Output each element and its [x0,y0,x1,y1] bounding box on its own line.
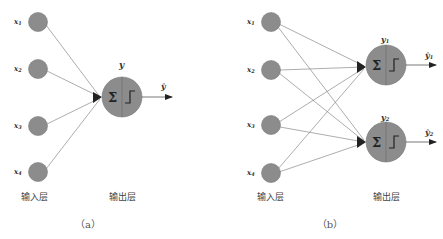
perceptron-diagram: x1 x2 x3 x4 Σ y ŷ 输入层 输出层 （a） [0,0,443,239]
input-nodes-a [29,13,48,182]
caption-b: （b） [317,219,343,230]
sigma-icon: Σ [108,90,117,105]
input-label: x1 [13,17,22,26]
input-node [29,13,48,32]
input-node [262,164,281,183]
prediction-label: ŷ1 [424,50,433,60]
input-arrowhead-icon [357,136,366,148]
input-node [29,60,48,79]
output-label: y [118,60,125,70]
input-label: x4 [246,168,255,177]
edge [279,143,364,172]
sigma-icon: Σ [372,135,381,150]
input-label: x3 [13,121,22,130]
output-label: y2 [380,112,390,122]
input-layer-label: 输入层 [21,191,48,202]
input-layer-label: 输入层 [257,191,284,202]
input-label: x4 [13,167,22,176]
caption-a: （a） [75,219,101,230]
output-label: y1 [380,34,389,44]
edge [279,68,364,122]
input-node [262,13,281,32]
output-layer-label: 输出层 [373,191,400,202]
input-label: x2 [13,64,22,73]
input-label: x2 [246,65,255,74]
output-node-b2: Σ [366,122,406,162]
edge [279,73,364,141]
edges-b-out2 [278,27,364,172]
prediction-label: ŷ [160,81,167,91]
edge [47,98,100,124]
panel-b: x1 x2 x3 x4 Σ y1 ŷ1 Σ y2 ŷ2 输入层 输出层 （b） [246,13,436,231]
output-layer-label: 输出层 [109,191,136,202]
input-node [262,61,281,80]
edge [47,71,100,97]
sigma-icon: Σ [372,58,381,73]
panel-a: x1 x2 x3 x4 Σ y ŷ 输入层 输出层 （a） [13,13,172,231]
output-node-a: Σ [102,77,142,117]
edge [46,25,100,97]
input-node [262,116,281,135]
edge [280,67,364,70]
input-node [29,163,48,182]
edge [280,127,364,142]
edge [46,99,100,169]
output-node-b1: Σ [366,45,406,85]
input-nodes-b [262,13,281,183]
input-label: x3 [246,120,255,129]
edges-a [46,25,100,169]
input-label: x1 [246,17,255,26]
input-arrowhead-icon [357,61,366,73]
prediction-label: ŷ2 [424,127,434,137]
input-node [29,117,48,136]
